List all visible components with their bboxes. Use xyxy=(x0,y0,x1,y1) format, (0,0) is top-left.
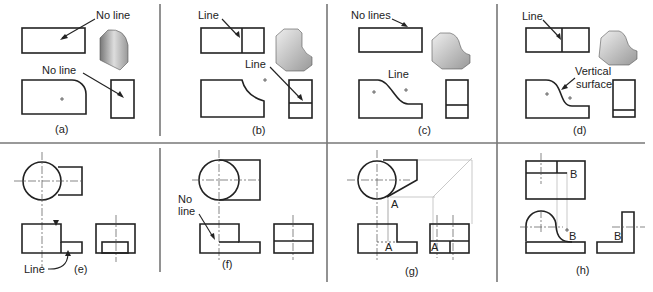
callout-label: Line xyxy=(388,68,409,80)
isometric-part-icon xyxy=(599,31,637,65)
panel-caption: (b) xyxy=(252,124,265,136)
callout-label: line xyxy=(178,205,195,217)
panel-caption: (c) xyxy=(418,124,431,136)
panel-d: Line Vertical surface (d) xyxy=(522,10,637,136)
panel-e: Line (e) xyxy=(14,152,135,275)
panel-caption: (e) xyxy=(74,263,87,275)
callout-label: No xyxy=(178,193,192,205)
panel-caption: (d) xyxy=(573,124,586,136)
panel-caption: (h) xyxy=(576,264,589,276)
point-label-a: A xyxy=(391,198,399,210)
point-label-b: B xyxy=(614,230,621,242)
panel-c: No lines Line (c) xyxy=(351,9,470,136)
callout-label: No line xyxy=(42,64,76,76)
callout-label: Line xyxy=(522,10,543,22)
panel-a: No line No line (a) xyxy=(22,9,134,135)
callout-label: Line xyxy=(198,9,219,21)
panel-caption: (f) xyxy=(222,258,232,270)
panel-h: B B B (h) xyxy=(520,153,645,276)
callout-label: surface xyxy=(576,78,612,90)
point-label-b: B xyxy=(570,168,577,180)
panel-caption: (a) xyxy=(55,123,68,135)
point-label-a: A xyxy=(385,241,393,253)
panel-f: No line (f) xyxy=(178,150,313,270)
panel-caption: (g) xyxy=(405,265,418,277)
point-label-a: A xyxy=(431,241,439,253)
callout-label: Line xyxy=(245,58,266,70)
callout-label: No line xyxy=(96,9,130,21)
isometric-part-icon xyxy=(276,29,312,71)
callout-label: Line xyxy=(24,263,45,275)
isometric-part-icon xyxy=(100,30,128,70)
panel-b: Line Line (b) xyxy=(198,9,312,136)
callout-label: Vertical xyxy=(575,65,611,77)
callout-label: No lines xyxy=(351,9,391,21)
multiview-diagram: No line No line (a) Line Line (b) No lin… xyxy=(0,0,653,292)
panel-g: A A A (g) xyxy=(347,150,472,277)
isometric-part-icon xyxy=(432,33,470,69)
point-label-b: B xyxy=(569,230,576,242)
